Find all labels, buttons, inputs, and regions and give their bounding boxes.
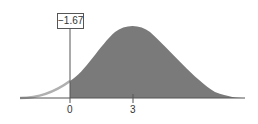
shaded-area [70,26,245,98]
normal-curve-plot [0,0,258,124]
unshaded-curve [20,81,70,98]
tick-label-0: 0 [67,104,73,115]
annotation-label: −1.67 [57,13,84,29]
tick-label-3: 3 [130,104,136,115]
